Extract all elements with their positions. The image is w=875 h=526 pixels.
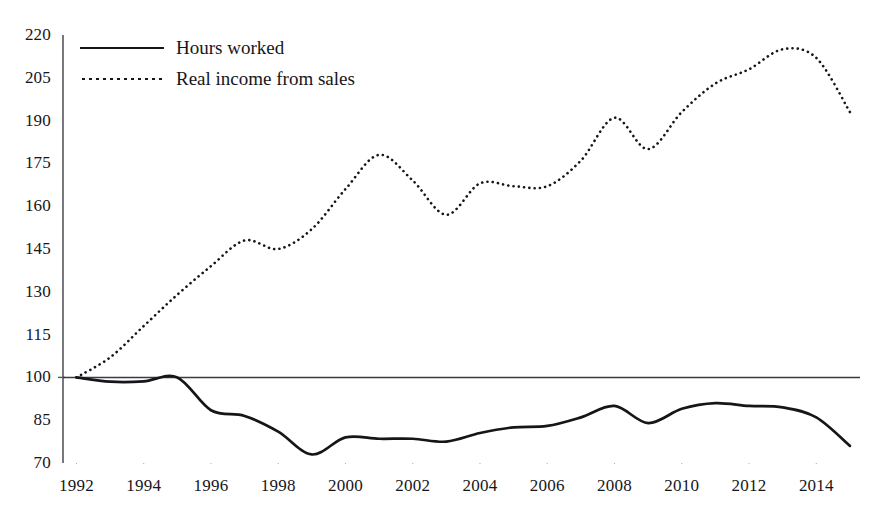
x-axis-label-1992: 1992 [59,476,94,496]
legend-label-real-income-from-sales: Real income from sales [176,68,355,90]
legend-dotted-line-swatch-icon [78,72,166,86]
y-axis-label-160: 160 [0,196,51,216]
x-axis-label-2012: 2012 [732,476,767,496]
y-axis-label-205: 205 [0,68,51,88]
y-axis-label-115: 115 [0,325,51,345]
legend-item-real-income-from-sales: Real income from sales [78,63,408,94]
x-axis-label-2006: 2006 [530,476,565,496]
x-axis-label-1998: 1998 [261,476,296,496]
series-line-real-income-from-sales [76,48,849,377]
x-axis-label-2008: 2008 [597,476,632,496]
y-axis-label-175: 175 [0,153,51,173]
y-axis-label-145: 145 [0,239,51,259]
y-axis-label-130: 130 [0,282,51,302]
chart-legend: Hours worked Real income from sales [78,32,408,94]
y-axis-label-220: 220 [0,25,51,45]
chart-container: 2202051901751601451301151008570 19921994… [0,0,875,526]
legend-label-hours-worked: Hours worked [176,37,284,59]
x-axis-label-2004: 2004 [463,476,498,496]
legend-item-hours-worked: Hours worked [78,32,408,63]
x-axis-label-1994: 1994 [126,476,161,496]
x-axis-label-1996: 1996 [194,476,229,496]
y-axis-label-85: 85 [0,410,51,430]
x-axis-label-2014: 2014 [799,476,834,496]
series-line-hours-worked [76,376,849,455]
y-axis-label-70: 70 [0,453,51,473]
legend-solid-line-swatch-icon [78,41,166,55]
y-axis-label-190: 190 [0,111,51,131]
y-axis-label-100: 100 [0,367,51,387]
x-axis-label-2000: 2000 [328,476,363,496]
x-axis-label-2002: 2002 [395,476,430,496]
x-axis-label-2010: 2010 [664,476,699,496]
